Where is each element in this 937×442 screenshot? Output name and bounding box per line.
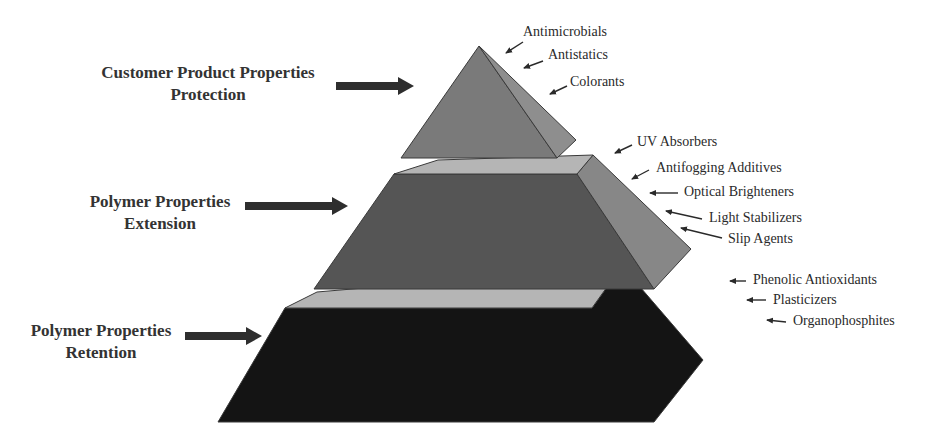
tier-arrow-top-icon bbox=[336, 77, 414, 95]
additive-label-antimicrobials: Antimicrobials bbox=[523, 24, 607, 40]
additive-arrow-icon bbox=[767, 320, 786, 322]
additive-label-slip-agents: Slip Agents bbox=[728, 231, 793, 247]
additive-label-antistatics: Antistatics bbox=[548, 47, 608, 63]
tier-label-middle-line1: Polymer Properties bbox=[80, 191, 240, 213]
additives-pyramid-diagram: Customer Product Properties Protection P… bbox=[0, 0, 937, 442]
tier-arrow-middle-icon bbox=[245, 197, 348, 215]
tier-label-middle: Polymer Properties Extension bbox=[80, 191, 240, 235]
additive-arrow-icon bbox=[524, 61, 543, 68]
tier-label-top-line2: Protection bbox=[86, 84, 330, 106]
additive-label-plasticizers: Plasticizers bbox=[773, 292, 837, 308]
additive-arrow-icon bbox=[550, 86, 567, 94]
additive-arrow-icon bbox=[681, 228, 722, 238]
tier-label-middle-line2: Extension bbox=[80, 213, 240, 235]
additive-label-colorants: Colorants bbox=[570, 74, 624, 90]
additive-label-light-stabilizers: Light Stabilizers bbox=[709, 210, 802, 226]
additive-label-optical-brighteners: Optical Brighteners bbox=[684, 184, 794, 200]
tier-label-top: Customer Product Properties Protection bbox=[86, 62, 330, 106]
additive-label-antifogging-additives: Antifogging Additives bbox=[656, 160, 782, 176]
tier-arrow-bottom-icon bbox=[185, 327, 262, 345]
tier-label-top-line1: Customer Product Properties bbox=[86, 62, 330, 84]
tier-label-bottom-line2: Retention bbox=[20, 342, 182, 364]
tier-label-bottom: Polymer Properties Retention bbox=[20, 320, 182, 364]
additive-label-uv-absorbers: UV Absorbers bbox=[637, 134, 717, 150]
additive-arrow-icon bbox=[615, 145, 632, 153]
additive-arrow-icon bbox=[666, 211, 702, 219]
additive-label-phenolic-antioxidants: Phenolic Antioxidants bbox=[753, 272, 877, 288]
additive-arrow-icon bbox=[506, 42, 523, 53]
additive-arrow-icon bbox=[632, 170, 649, 179]
tier-label-bottom-line1: Polymer Properties bbox=[20, 320, 182, 342]
additive-label-organophosphites: Organophosphites bbox=[793, 313, 895, 329]
